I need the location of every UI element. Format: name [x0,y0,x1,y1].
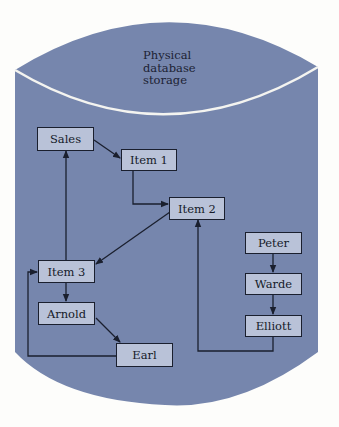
node-item-1: Item 1 [121,149,177,171]
node-elliott: Elliott [245,315,302,337]
title-line: Physical [143,49,196,62]
node-item-3: Item 3 [38,260,95,283]
diagram-title: Physical database storage [143,49,196,87]
node-item-2: Item 2 [169,197,225,220]
node-peter: Peter [245,232,302,254]
node-earl: Earl [116,343,173,367]
node-warde: Warde [245,273,302,295]
node-sales: Sales [37,127,94,151]
title-line: storage [143,74,196,87]
node-arnold: Arnold [38,302,95,325]
